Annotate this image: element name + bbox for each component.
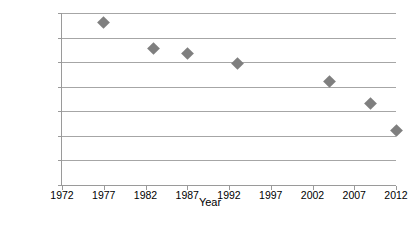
y-axis-tick-mark bbox=[58, 62, 62, 63]
y-axis-tick-mark bbox=[58, 136, 62, 137]
y-axis-tick-mark bbox=[58, 160, 62, 161]
data-point-marker bbox=[147, 42, 160, 55]
chart-container: 0.010.020.030.040.050.060.070.0197219771… bbox=[0, 0, 420, 231]
gridline bbox=[62, 160, 396, 161]
gridline bbox=[62, 111, 396, 112]
data-point-marker bbox=[181, 47, 194, 60]
y-axis-tick-mark bbox=[58, 111, 62, 112]
data-point-marker bbox=[390, 124, 403, 137]
gridline bbox=[62, 38, 396, 39]
data-point-marker bbox=[365, 97, 378, 110]
data-point-marker bbox=[97, 16, 110, 29]
gridline bbox=[62, 87, 396, 88]
gridline bbox=[62, 136, 396, 137]
y-axis-tick-mark bbox=[58, 87, 62, 88]
data-point-marker bbox=[231, 57, 244, 70]
plot-area: 0.010.020.030.040.050.060.070.0197219771… bbox=[61, 13, 396, 186]
gridline bbox=[62, 13, 396, 14]
gridline bbox=[62, 62, 396, 63]
x-axis-title: Year bbox=[0, 196, 420, 208]
y-axis-tick-mark bbox=[58, 13, 62, 14]
y-axis-tick-mark bbox=[58, 38, 62, 39]
